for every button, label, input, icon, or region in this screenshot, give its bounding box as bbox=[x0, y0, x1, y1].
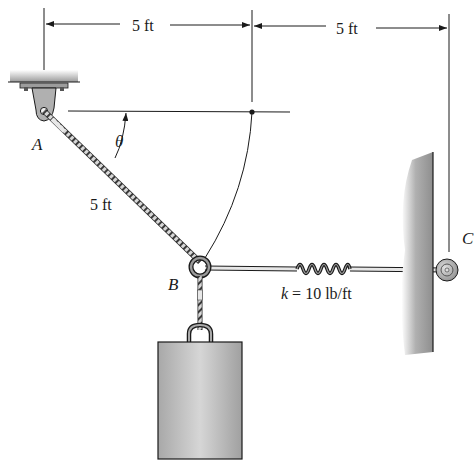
mechanics-diagram: 5 ft 5 ft bbox=[0, 0, 476, 469]
point-label-a: A bbox=[31, 135, 43, 154]
hanging-cable bbox=[189, 276, 211, 342]
spring-constant-label: k = 10 lb/ft bbox=[281, 285, 352, 302]
wall-c bbox=[402, 152, 434, 355]
anchor-c bbox=[436, 259, 458, 281]
hanging-block bbox=[158, 342, 242, 459]
cable-length-label: 5 ft bbox=[90, 196, 112, 213]
dim-label-top-left: 5 ft bbox=[132, 17, 154, 34]
point-label-b: B bbox=[168, 275, 179, 294]
dim-label-top-right: 5 ft bbox=[336, 20, 358, 37]
dimension-lines bbox=[44, 8, 449, 258]
reference-point bbox=[249, 109, 254, 114]
angle-label-theta: θ bbox=[115, 132, 123, 151]
spring-k-value: = 10 lb/ft bbox=[288, 285, 352, 302]
point-label-c: C bbox=[462, 229, 474, 248]
